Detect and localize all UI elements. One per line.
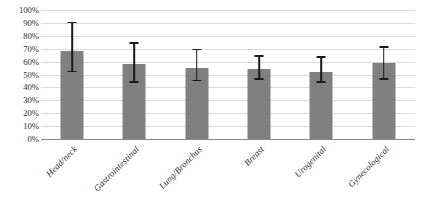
error-bar-stem — [258, 55, 260, 78]
y-tick-label: 50% — [3, 70, 39, 79]
bar-group — [353, 10, 415, 139]
error-bar-cap-upper — [317, 56, 326, 58]
error-bar-cap-upper — [255, 55, 264, 57]
y-tick-label: 60% — [3, 57, 39, 66]
y-tick-label: 90% — [3, 19, 39, 28]
bar-group — [290, 10, 352, 139]
x-tick-slot: Gynecological — [353, 140, 415, 215]
x-tick-slot: Head/neck — [41, 140, 103, 215]
y-axis: 0%10%20%30%40%50%60%70%80%90%100% — [0, 10, 39, 139]
error-bar-cap-lower — [192, 80, 201, 82]
x-tick-label: Gynecological — [346, 144, 391, 189]
error-bar-cap-lower — [68, 71, 77, 73]
error-bar-cap-lower — [130, 81, 139, 83]
error-bar-stem — [383, 46, 385, 78]
bar-group — [166, 10, 228, 139]
error-bar-stem — [196, 49, 198, 80]
x-axis-labels: Head/neckGastrointestinalLung/BronchusBr… — [41, 140, 415, 215]
x-tick-label: Urogenital — [293, 144, 328, 179]
y-tick-label: 70% — [3, 44, 39, 53]
error-bar-stem — [134, 42, 136, 81]
y-tick-label: 10% — [3, 122, 39, 131]
plot-area — [41, 10, 415, 139]
bar-group — [228, 10, 290, 139]
y-tick-label: 30% — [3, 96, 39, 105]
y-tick-label: 40% — [3, 83, 39, 92]
bar-group — [41, 10, 103, 139]
error-bar-cap-upper — [379, 46, 388, 48]
y-tick-label: 0% — [3, 135, 39, 144]
x-tick-label: Head/neck — [44, 144, 79, 179]
error-bar-cap-lower — [255, 78, 264, 80]
error-bar-cap-lower — [317, 81, 326, 83]
error-bar-cap-upper — [192, 49, 201, 51]
y-tick-label: 100% — [3, 6, 39, 15]
bar-group — [103, 10, 165, 139]
x-tick-slot: Urogenital — [290, 140, 352, 215]
x-tick-slot: Lung/Bronchus — [166, 140, 228, 215]
error-bar-stem — [321, 56, 323, 81]
x-tick-slot: Breast — [228, 140, 290, 215]
y-tick-label: 80% — [3, 32, 39, 41]
bar-chart: 0%10%20%30%40%50%60%70%80%90%100% Head/n… — [0, 0, 423, 215]
error-bar-stem — [71, 22, 73, 71]
error-bar-cap-upper — [130, 42, 139, 44]
x-tick-slot: Gastrointestinal — [103, 140, 165, 215]
error-bar-cap-lower — [379, 78, 388, 80]
x-tick-label: Breast — [242, 144, 266, 168]
y-tick-label: 20% — [3, 109, 39, 118]
error-bar-cap-upper — [68, 22, 77, 24]
